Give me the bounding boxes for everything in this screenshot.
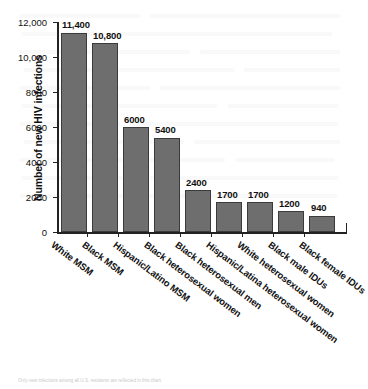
y-tick-label-12000: 12,000 — [18, 17, 47, 28]
bar-black-heterosexual-men — [185, 190, 211, 232]
bar-value-label-white-msm: 11,400 — [62, 19, 90, 30]
bar-black-male-idus — [278, 211, 304, 232]
y-tick-label-8000: 8000 — [26, 87, 47, 98]
x-axis-end-cap — [346, 223, 347, 233]
x-tick-6 — [242, 232, 243, 237]
y-tick-6000: 6000 — [53, 127, 58, 128]
bar-value-label-white-heterosexual-women: 1700 — [248, 189, 269, 200]
y-tick-label-10000: 10,000 — [18, 52, 47, 63]
y-tick-8000: 8000 — [53, 92, 58, 93]
y-tick-label-6000: 6000 — [26, 122, 47, 133]
bar-black-msm — [92, 43, 118, 232]
bar-hispanic-latina-heterosexual-women — [216, 202, 242, 232]
x-tick-2 — [118, 232, 119, 237]
y-tick-4000: 4000 — [53, 162, 58, 163]
x-tick-8 — [304, 232, 305, 237]
y-tick-label-2000: 2000 — [26, 192, 47, 203]
bar-white-msm — [61, 33, 87, 233]
bar-value-label-black-female-idus: 940 — [311, 202, 327, 213]
bar-value-label-hispanic-latino-msm: 6000 — [124, 114, 145, 125]
y-tick-12000: 12,000 — [53, 22, 58, 23]
x-tick-5 — [211, 232, 212, 237]
figure-caption: Only new infections among all U.S. resid… — [18, 378, 358, 383]
bar-black-heterosexual-women — [154, 138, 180, 233]
x-tick-4 — [180, 232, 181, 237]
y-tick-label-0: 0 — [42, 227, 47, 238]
y-tick-2000: 2000 — [53, 197, 58, 198]
bar-value-label-black-male-idus: 1200 — [279, 198, 300, 209]
bar-value-label-black-heterosexual-men: 2400 — [186, 177, 207, 188]
bar-black-female-idus — [309, 216, 335, 232]
x-tick-1 — [87, 232, 88, 237]
x-tick-3 — [149, 232, 150, 237]
plot-area: 0 2000 4000 6000 8000 10,000 12,000 — [57, 22, 347, 232]
x-tick-7 — [273, 232, 274, 237]
bar-value-label-hispanic-latina-heterosexual-women: 1700 — [217, 189, 238, 200]
y-tick-label-4000: 4000 — [26, 157, 47, 168]
bar-white-heterosexual-women — [247, 202, 273, 232]
y-tick-10000: 10,000 — [53, 57, 58, 58]
bar-hispanic-latino-msm — [123, 127, 149, 232]
bar-value-label-black-heterosexual-women: 5400 — [155, 124, 176, 135]
bar-value-label-black-msm: 10,800 — [93, 30, 121, 41]
y-tick-0: 0 — [53, 232, 58, 233]
